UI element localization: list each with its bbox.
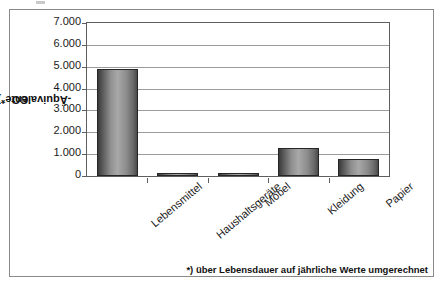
gridline — [87, 67, 389, 68]
bar — [278, 148, 319, 176]
y-tick-mark — [82, 67, 87, 68]
y-tick-label: 2.000 — [53, 125, 81, 136]
bar — [157, 173, 198, 176]
y-axis-title: CO2-Äquivalente*) in t/a — [10, 22, 30, 177]
y-tick-label: 7.000 — [53, 16, 81, 27]
bar — [338, 159, 379, 176]
y-tick-mark — [82, 110, 87, 111]
x-axis-category-labels: LebensmittelHaushaltsgeräteMöbelKleidung… — [86, 180, 390, 252]
plot-area — [86, 22, 390, 177]
scan-artifact — [36, 1, 45, 4]
y-tick-label: 6.000 — [53, 38, 81, 49]
y-tick-mark — [82, 45, 87, 46]
bar — [97, 69, 138, 176]
footnote: *) über Lebensdauer auf jährliche Werte … — [9, 264, 437, 275]
y-tick-mark — [82, 176, 87, 177]
y-tick-label: 5.000 — [53, 60, 81, 71]
gridline — [87, 45, 389, 46]
y-tick-label: 1.000 — [53, 147, 81, 158]
y-tick-mark — [82, 89, 87, 90]
y-tick-mark — [82, 23, 87, 24]
x-category-label: Lebensmittel — [149, 180, 204, 229]
y-axis-tick-labels: 01.0002.0003.0004.0005.0006.0007.000 — [30, 22, 81, 177]
y-tick-label: 4.000 — [53, 82, 81, 93]
y-tick-mark — [82, 154, 87, 155]
bar — [218, 173, 259, 176]
y-tick-mark — [82, 132, 87, 133]
y-tick-label: 3.000 — [53, 103, 81, 114]
y-tick-label: 0 — [75, 169, 81, 180]
x-category-label: Kleidung — [325, 180, 366, 217]
chart-figure: CO2-Äquivalente*) in t/a 01.0002.0003.00… — [0, 0, 446, 287]
